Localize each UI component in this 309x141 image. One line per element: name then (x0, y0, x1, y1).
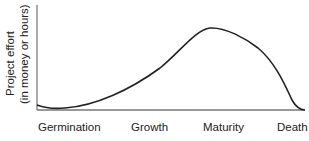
stage-label-maturity: Maturity (203, 121, 244, 133)
stage-label-growth: Growth (131, 121, 168, 133)
effort-curve-plot (0, 0, 309, 141)
stage-label-death: Death (277, 121, 308, 133)
stage-label-germination: Germination (38, 121, 101, 133)
effort-curve (37, 28, 305, 110)
